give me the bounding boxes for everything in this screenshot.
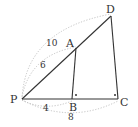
- length-pc: 8: [68, 112, 74, 122]
- arc-pa: [22, 47, 76, 97]
- label-a: A: [65, 37, 75, 50]
- label-c: C: [120, 96, 128, 109]
- segment-dc: [111, 16, 118, 99]
- right-angle-mark-b: [75, 94, 77, 96]
- right-angle-mark-c: [114, 94, 116, 96]
- segment-ab: [72, 48, 76, 99]
- label-p: P: [10, 93, 18, 106]
- length-pa: 6: [40, 60, 46, 70]
- label-d: D: [106, 3, 115, 16]
- length-pd: 10: [46, 38, 58, 48]
- geometry-diagram: P A B C D 10 6 4 8: [0, 0, 138, 127]
- length-pb: 4: [43, 103, 49, 113]
